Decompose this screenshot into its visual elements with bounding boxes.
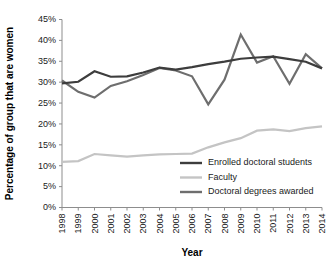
series-line-enrolled-doctoral-students [62, 57, 322, 84]
x-tick-label: 2013 [301, 214, 311, 234]
x-tick-label: 2005 [171, 214, 181, 234]
x-tick-label: 2010 [252, 214, 262, 234]
y-tick-label: 20% [38, 119, 56, 129]
y-tick-label: 0% [43, 202, 56, 212]
y-tick-label: 35% [38, 56, 56, 66]
legend-label-2: Doctoral degrees awarded [208, 186, 314, 196]
y-axis-ticks: 0%5%10%15%20%25%30%35%40%45% [38, 14, 62, 212]
legend-label-1: Faculty [208, 172, 238, 182]
x-tick-label: 2007 [203, 214, 213, 234]
line-chart-plot: 0%5%10%15%20%25%30%35%40%45% 19981999200… [0, 0, 331, 262]
y-tick-label: 25% [38, 98, 56, 108]
x-tick-label: 2002 [122, 214, 132, 234]
x-tick-label: 2014 [317, 214, 327, 234]
x-tick-label: 2006 [187, 214, 197, 234]
x-tick-label: 2001 [106, 214, 116, 234]
data-series-group [62, 35, 322, 162]
legend-label-0: Enrolled doctoral students [208, 157, 313, 167]
y-tick-label: 45% [38, 14, 56, 24]
x-tick-label: 2003 [138, 214, 148, 234]
y-tick-label: 15% [38, 140, 56, 150]
y-tick-label: 30% [38, 77, 56, 87]
x-axis-group: 1998199920002001200220032004200520062007… [57, 208, 327, 234]
x-tick-label: 1998 [57, 214, 67, 234]
y-tick-label: 5% [43, 181, 56, 191]
x-tick-label: 2008 [220, 214, 230, 234]
x-tick-label: 2000 [90, 214, 100, 234]
x-tick-label: 2004 [155, 214, 165, 234]
x-tick-label: 2009 [236, 214, 246, 234]
y-tick-label: 10% [38, 161, 56, 171]
y-tick-label: 40% [38, 35, 56, 45]
y-axis-group: 0%5%10%15%20%25%30%35%40%45% [38, 14, 62, 212]
chart-legend: Enrolled doctoral studentsFacultyDoctora… [180, 157, 314, 196]
x-axis-ticks: 1998199920002001200220032004200520062007… [57, 208, 327, 234]
x-axis-title: Year [181, 247, 202, 258]
chart-container: 0%5%10%15%20%25%30%35%40%45% 19981999200… [0, 0, 331, 262]
x-tick-label: 2012 [285, 214, 295, 234]
x-tick-label: 2011 [268, 214, 278, 233]
y-axis-title: Percentage of group that are women [4, 27, 15, 200]
series-line-doctoral-degrees-awarded [62, 35, 322, 105]
x-tick-label: 1999 [73, 214, 83, 234]
